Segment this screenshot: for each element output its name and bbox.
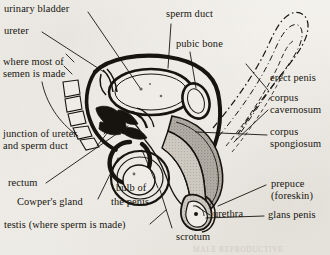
label-cavernosum-line1: corpus	[270, 92, 298, 104]
label-urinary-bladder: urinary bladder	[4, 3, 69, 15]
anatomical-figure: MALE REPRODUCTIVE	[0, 0, 330, 255]
label-urethra: urethra	[213, 208, 243, 220]
label-prepuce-line2: (foreskin)	[271, 190, 313, 202]
label-cowpers-gland: Cowper's gland	[17, 196, 83, 208]
label-pubic-bone: pubic bone	[176, 38, 223, 50]
label-erect-penis: erect penis	[270, 72, 316, 84]
label-ureter: ureter	[4, 25, 29, 37]
glans-and-prepuce	[181, 195, 215, 232]
label-bulb-line1: bulb of	[116, 182, 146, 194]
label-junction-line2: and sperm duct	[3, 140, 68, 152]
label-glans-penis: glans penis	[268, 209, 316, 221]
label-rectum: rectum	[8, 177, 37, 189]
label-semen-line1: where most of	[3, 56, 64, 68]
label-junction-line1: junction of ureter	[3, 128, 77, 140]
label-prepuce-line1: prepuce	[271, 178, 305, 190]
label-semen-line2: semen is made	[3, 68, 65, 80]
label-testis: testis (where sperm is made)	[4, 219, 126, 231]
label-cavernosum-line2: cavernosum	[270, 104, 321, 116]
urinary-bladder-shape	[109, 69, 193, 115]
label-bulb-line2: the penis	[111, 196, 149, 208]
label-scrotum: scrotum	[176, 231, 210, 243]
label-sperm-duct: sperm duct	[166, 8, 213, 20]
label-spongiosum-line1: corpus	[270, 126, 298, 138]
label-spongiosum-line2: spongiosum	[270, 138, 321, 150]
